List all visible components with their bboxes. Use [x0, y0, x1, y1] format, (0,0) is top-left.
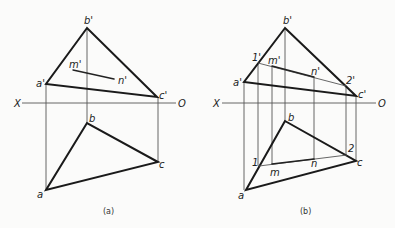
label-a-prime: a' — [233, 77, 242, 88]
label-1: 1 — [252, 157, 258, 168]
front-view-triangle — [46, 28, 157, 97]
axis-label-o: O — [178, 98, 186, 109]
label-c-prime: c' — [358, 89, 366, 100]
panel-a: b' a' c' m' n' X O b a c (a) — [13, 15, 186, 216]
axis-label-x: X — [13, 98, 22, 109]
caption-b: (b) — [300, 207, 311, 216]
label-2: 2 — [348, 143, 354, 154]
label-n-prime: n' — [311, 66, 320, 77]
label-a: a — [238, 190, 244, 201]
panel-b: b' a' c' 1' m' n' 2' X O b a c 1 m n 2 (… — [212, 15, 386, 216]
line-mn-front — [272, 66, 314, 77]
label-m-prime: m' — [268, 55, 281, 66]
label-a: a — [37, 189, 43, 200]
axis-label-x: X — [212, 98, 221, 109]
label-n: n — [311, 158, 317, 169]
axis-label-o: O — [378, 98, 386, 109]
projection-diagram: b' a' c' m' n' X O b a c (a) b' a' c' 1'… — [0, 0, 395, 228]
caption-a: (a) — [103, 207, 114, 216]
label-c: c — [159, 159, 165, 170]
label-c-prime: c' — [159, 90, 167, 101]
label-b: b — [288, 112, 294, 123]
label-1-prime: 1' — [252, 52, 261, 63]
label-2-prime: 2' — [346, 75, 355, 86]
label-m: m — [270, 167, 280, 178]
label-b-prime: b' — [84, 15, 93, 26]
label-n-prime: n' — [118, 75, 127, 86]
top-view-triangle — [46, 123, 158, 190]
label-b: b — [89, 113, 95, 124]
label-m-prime: m' — [69, 59, 82, 70]
label-b-prime: b' — [283, 15, 292, 26]
line-mn-top — [272, 159, 314, 164]
label-c: c — [357, 157, 363, 168]
line-mn-front — [73, 70, 114, 79]
label-a-prime: a' — [36, 78, 45, 89]
